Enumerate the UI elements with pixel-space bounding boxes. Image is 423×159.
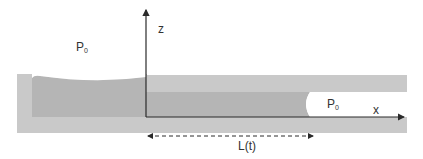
pressure-subscript: 0 bbox=[84, 47, 88, 54]
pressure-symbol: P bbox=[76, 40, 84, 54]
reservoir-liquid bbox=[32, 76, 146, 117]
z-axis-label: z bbox=[158, 23, 164, 35]
length-label: L(t) bbox=[238, 140, 256, 152]
gas-region bbox=[306, 92, 407, 117]
liquid-column bbox=[146, 92, 310, 117]
gas-pressure-label: P0 bbox=[327, 98, 339, 111]
diagram-canvas bbox=[0, 0, 423, 159]
lower-wall bbox=[146, 117, 407, 133]
pressure-symbol: P bbox=[327, 97, 335, 111]
pressure-subscript: 0 bbox=[335, 104, 339, 111]
x-axis-label: x bbox=[373, 104, 379, 116]
upper-wall bbox=[146, 75, 407, 92]
capillary-diagram: P0 z P0 x L(t) bbox=[0, 0, 423, 159]
reservoir-pressure-label: P0 bbox=[76, 41, 88, 54]
